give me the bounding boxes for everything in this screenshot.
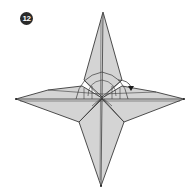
- star-model-drawing: [0, 0, 186, 192]
- origami-diagram: 12: [0, 0, 186, 192]
